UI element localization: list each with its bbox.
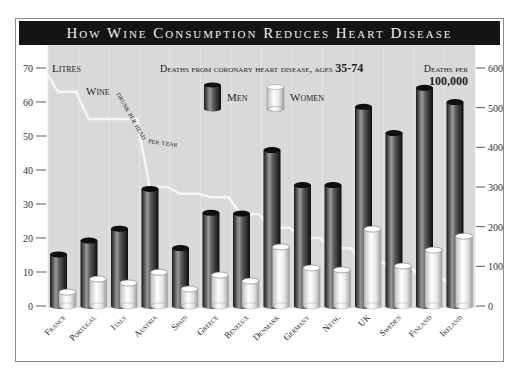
legend-women-label: Women	[290, 91, 324, 103]
x-axis-label: Austria	[132, 312, 159, 339]
left-axis-tick: 40	[23, 165, 33, 176]
x-axis-label: Benelux	[222, 312, 251, 341]
left-axis-tick: 0	[28, 301, 33, 312]
right-axis-tick: 200	[488, 222, 503, 233]
right-axis-tick: 300	[488, 182, 503, 193]
x-axis-label: Spain	[169, 312, 190, 333]
left-axis-tick: 20	[23, 233, 33, 244]
left-axis-tick: 70	[23, 63, 33, 74]
left-axis-tick: 50	[23, 131, 33, 142]
x-axis-label: Ireland	[438, 312, 465, 339]
bar-women	[456, 236, 473, 306]
right-axis-tick: 500	[488, 103, 503, 114]
right-axis-tick: 0	[488, 301, 493, 312]
right-axis-label-units: 100,000	[429, 74, 468, 88]
right-axis-tick: 600	[488, 63, 503, 74]
bar-women	[273, 247, 290, 306]
legend-men-swatch	[204, 83, 221, 112]
right-axis-label: Deaths per	[424, 63, 469, 74]
x-axis-label: France	[42, 312, 67, 337]
chart-plot: 7060504030201006005004003002001000 Franc…	[0, 0, 519, 376]
x-axis-label: Italy	[109, 312, 129, 332]
x-axis-label: Neth.	[320, 312, 342, 334]
x-axis-label: Portugal	[67, 312, 98, 343]
bar-women	[334, 270, 351, 306]
bar-women	[212, 275, 229, 306]
bar-women	[242, 281, 259, 306]
left-axis-tick: 60	[23, 97, 33, 108]
left-axis-tick: 30	[23, 199, 33, 210]
x-axis-label: Germany	[281, 312, 312, 343]
right-axis-tick: 400	[488, 142, 503, 153]
x-axis-label: Finland	[407, 312, 434, 339]
right-axis-tick: 100	[488, 261, 503, 272]
bar-women	[364, 229, 381, 306]
x-axis-label: Denmark	[251, 312, 282, 343]
bar-women	[120, 283, 137, 306]
bar-women	[395, 266, 412, 306]
x-axis-label: UK	[356, 312, 373, 329]
bar-women	[90, 279, 107, 306]
left-axis-tick: 10	[23, 267, 33, 278]
x-axis-label: Greece	[195, 312, 220, 337]
bar-women	[425, 250, 442, 306]
chart-subtitle: Deaths from coronary heart disease, ages…	[160, 61, 363, 75]
legend-women-swatch	[267, 85, 284, 112]
left-axis-label: Litres	[52, 62, 81, 74]
svg-text:Wine: Wine	[86, 85, 110, 97]
legend-men-label: Men	[227, 91, 248, 103]
bar-women	[151, 272, 168, 306]
x-axis-label: Sweden	[377, 312, 403, 338]
bar-women	[303, 268, 320, 306]
